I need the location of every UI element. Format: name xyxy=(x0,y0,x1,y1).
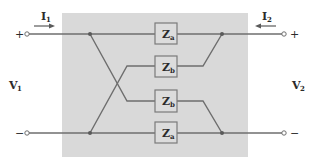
current-arrow-i1 xyxy=(34,24,55,29)
svg-text:b: b xyxy=(170,66,175,75)
lattice-network-diagram: Z a Z b Z b Z a I 1 I 2 + − + − V 1 V 2 xyxy=(0,0,310,164)
port2-plus-sign: + xyxy=(290,28,299,41)
arrow-left-icon xyxy=(255,24,261,29)
node-bottom-right xyxy=(220,131,224,135)
terminal-port1-plus xyxy=(25,32,29,36)
node-bottom-left xyxy=(88,131,92,135)
terminal-port1-minus xyxy=(25,131,29,135)
arrow-right-icon xyxy=(49,24,55,29)
svg-text:a: a xyxy=(170,132,175,141)
impedance-zb-lower: Z b xyxy=(155,90,177,112)
svg-text:Z: Z xyxy=(162,28,170,41)
current-arrow-i2 xyxy=(255,24,276,29)
svg-text:b: b xyxy=(170,100,175,109)
svg-text:Z: Z xyxy=(162,61,170,74)
svg-text:a: a xyxy=(170,33,175,42)
impedance-zb-upper: Z b xyxy=(155,56,177,77)
port1-plus-sign: + xyxy=(15,28,24,41)
port2-minus-sign: − xyxy=(290,127,299,140)
node-top-right xyxy=(220,32,224,36)
node-top-left xyxy=(88,32,92,36)
svg-text:Z: Z xyxy=(162,95,170,108)
voltage-sub-v2: 2 xyxy=(300,84,305,93)
current-sub-i2: 2 xyxy=(267,15,272,24)
impedance-za-top: Z a xyxy=(155,23,177,44)
terminal-port2-plus xyxy=(282,32,286,36)
current-sub-i1: 1 xyxy=(46,15,51,24)
terminal-port2-minus xyxy=(282,131,286,135)
impedance-za-bottom: Z a xyxy=(155,122,177,143)
svg-text:Z: Z xyxy=(162,127,170,140)
voltage-sub-v1: 1 xyxy=(17,84,22,93)
port1-minus-sign: − xyxy=(15,127,24,140)
